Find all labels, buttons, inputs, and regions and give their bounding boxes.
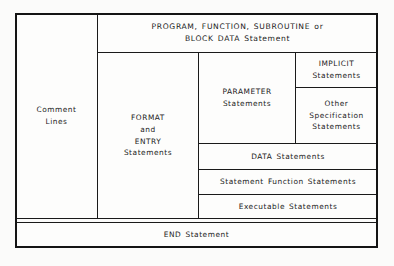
block-end-statement: END Statement <box>15 222 378 248</box>
block-program-header-label: PROGRAM, FUNCTION, SUBROUTINE or BLOCK D… <box>152 21 324 45</box>
block-executable-statements: Executable Statements <box>198 194 378 219</box>
fortran-statement-order-diagram: Comment Lines PROGRAM, FUNCTION, SUBROUT… <box>0 0 394 266</box>
block-other-specification-statements-label: Other Specification Statements <box>309 98 364 133</box>
block-implicit-statements: IMPLICIT Statements <box>295 52 378 88</box>
block-program-header: PROGRAM, FUNCTION, SUBROUTINE or BLOCK D… <box>97 13 378 53</box>
block-executable-statements-label: Executable Statements <box>239 201 338 213</box>
block-parameter-statements-label: PARAMETER Statements <box>222 86 271 109</box>
block-statement-function-statements-label: Statement Function Statements <box>220 176 356 188</box>
block-format-entry: FORMAT and ENTRY Statements <box>97 52 199 219</box>
block-implicit-statements-label: IMPLICIT Statements <box>312 58 360 81</box>
block-parameter-statements: PARAMETER Statements <box>198 52 296 144</box>
block-data-statements: DATA Statements <box>198 143 378 170</box>
block-end-statement-label: END Statement <box>164 229 229 241</box>
block-format-entry-label: FORMAT and ENTRY Statements <box>124 112 172 159</box>
block-comment-lines: Comment Lines <box>15 13 98 219</box>
block-other-specification-statements: Other Specification Statements <box>295 87 378 144</box>
block-statement-function-statements: Statement Function Statements <box>198 169 378 195</box>
block-comment-lines-label: Comment Lines <box>36 104 76 127</box>
block-data-statements-label: DATA Statements <box>251 151 325 163</box>
